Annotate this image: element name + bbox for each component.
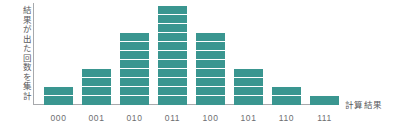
bar-segment <box>196 33 225 42</box>
bar-segment <box>272 87 301 96</box>
x-tick-101: 101 <box>229 113 269 123</box>
bar-segment <box>196 87 225 96</box>
bar-segment <box>120 33 149 42</box>
bar-stack <box>82 69 111 105</box>
bar-segment <box>120 69 149 78</box>
plot-area <box>34 0 339 105</box>
bar-segment <box>82 78 111 87</box>
bar-stack <box>234 69 263 105</box>
bar-segment <box>158 87 187 96</box>
bar-segment <box>234 78 263 87</box>
bar-segment <box>196 69 225 78</box>
bar-segment <box>158 6 187 15</box>
bar-segment <box>196 42 225 51</box>
x-tick-010: 010 <box>115 113 155 123</box>
bar-segment <box>82 87 111 96</box>
bar-stack <box>120 33 149 105</box>
bar-stack <box>310 96 339 105</box>
bar-segment <box>196 78 225 87</box>
x-tick-111: 111 <box>305 113 345 123</box>
bar-segment <box>158 42 187 51</box>
bar-stack <box>196 33 225 105</box>
bar-segment <box>158 24 187 33</box>
bar-segment <box>310 96 339 105</box>
bar-segment <box>82 69 111 78</box>
y-axis-label: 結果が出た回数を集計 <box>12 6 30 110</box>
bar-000 <box>44 0 73 105</box>
bar-segment <box>120 42 149 51</box>
bar-segment <box>196 60 225 69</box>
bar-111 <box>310 0 339 105</box>
bar-100 <box>196 0 225 105</box>
x-tick-001: 001 <box>77 113 117 123</box>
bar-segment <box>196 51 225 60</box>
bar-segment <box>234 69 263 78</box>
bar-segment <box>44 96 73 105</box>
bar-segment <box>44 87 73 96</box>
bar-segment <box>158 33 187 42</box>
bar-110 <box>272 0 301 105</box>
bar-segment <box>196 96 225 105</box>
x-tick-100: 100 <box>191 113 231 123</box>
bar-010 <box>120 0 149 105</box>
bar-segment <box>82 96 111 105</box>
x-tick-110: 110 <box>267 113 307 123</box>
bar-segment <box>158 69 187 78</box>
x-tick-011: 011 <box>153 113 193 123</box>
x-axis-tick-labels: 000001010011100101110111 <box>34 110 339 128</box>
bar-stack <box>272 87 301 105</box>
bar-segment <box>158 96 187 105</box>
bar-segment <box>158 51 187 60</box>
bar-segment <box>234 96 263 105</box>
bar-segment <box>272 96 301 105</box>
bar-segment <box>120 60 149 69</box>
bar-segment <box>120 78 149 87</box>
bar-segment <box>158 60 187 69</box>
bar-001 <box>82 0 111 105</box>
bar-segment <box>120 96 149 105</box>
bar-101 <box>234 0 263 105</box>
bar-stack <box>44 87 73 105</box>
x-axis-label: 計算結果 <box>345 98 383 110</box>
bar-stack <box>158 6 187 105</box>
histogram-chart: 結果が出た回数を集計 計算結果 000001010011100101110111 <box>0 0 407 136</box>
bar-segment <box>234 87 263 96</box>
bar-segment <box>158 78 187 87</box>
bar-011 <box>158 0 187 105</box>
x-tick-000: 000 <box>39 113 79 123</box>
bar-segment <box>158 15 187 24</box>
bar-segment <box>120 87 149 96</box>
bar-segment <box>120 51 149 60</box>
